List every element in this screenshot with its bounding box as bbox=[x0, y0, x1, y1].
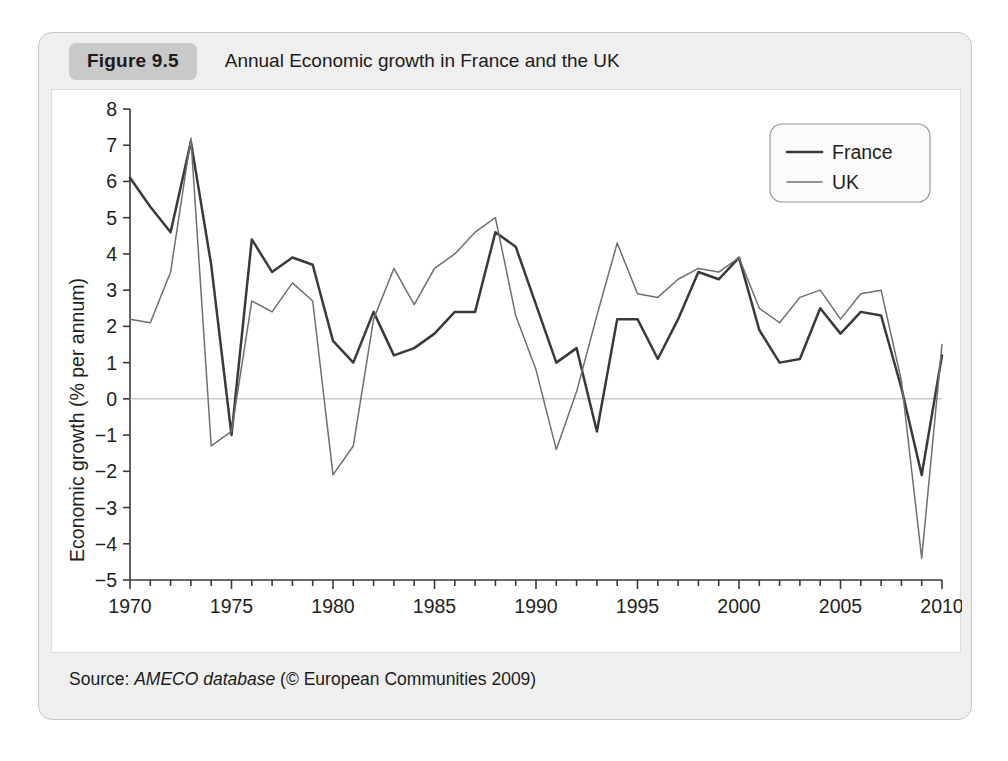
source-rights: (© European Communities 2009) bbox=[280, 669, 536, 689]
y-axis-ticks: 876543210−1−2−3−4−5 bbox=[95, 98, 130, 591]
x-tick-label: 1985 bbox=[413, 595, 457, 617]
economic-growth-line-chart: Economic growth (% per annum) 876543210−… bbox=[52, 90, 962, 654]
y-tick-label: −2 bbox=[95, 460, 117, 482]
x-axis-ticks: 197019751980198519901995200020052010 bbox=[108, 580, 962, 617]
x-tick-label: 2000 bbox=[717, 595, 761, 617]
x-tick-label: 1995 bbox=[616, 595, 660, 617]
y-axis-title: Economic growth (% per annum) bbox=[66, 278, 88, 562]
y-tick-label: 4 bbox=[106, 243, 117, 265]
chart-panel: Economic growth (% per annum) 876543210−… bbox=[51, 89, 961, 653]
y-tick-label: −4 bbox=[95, 533, 117, 555]
figure-header: Figure 9.5 Annual Economic growth in Fra… bbox=[39, 33, 971, 89]
y-tick-label: 5 bbox=[106, 207, 117, 229]
chart-legend: FranceUK bbox=[770, 124, 930, 202]
y-tick-label: 1 bbox=[106, 352, 117, 374]
x-tick-label: 1975 bbox=[210, 595, 254, 617]
source-label: Source: bbox=[69, 669, 129, 689]
y-tick-label: 6 bbox=[106, 170, 117, 192]
legend-label-france: France bbox=[832, 141, 893, 163]
y-tick-label: −1 bbox=[95, 424, 117, 446]
y-tick-label: 3 bbox=[106, 279, 117, 301]
figure-card: Figure 9.5 Annual Economic growth in Fra… bbox=[38, 32, 972, 720]
x-tick-label: 2005 bbox=[819, 595, 863, 617]
y-tick-label: 7 bbox=[106, 134, 117, 156]
y-tick-label: 8 bbox=[106, 98, 117, 120]
y-tick-label: −3 bbox=[95, 497, 117, 519]
x-tick-label: 1970 bbox=[108, 595, 152, 617]
y-tick-label: 2 bbox=[106, 315, 117, 337]
source-database-name: AMECO database bbox=[134, 669, 275, 689]
x-tick-label: 1980 bbox=[311, 595, 355, 617]
y-axis-title-group: Economic growth (% per annum) bbox=[66, 278, 88, 562]
figure-number-badge: Figure 9.5 bbox=[69, 43, 197, 80]
legend-label-uk: UK bbox=[832, 171, 859, 193]
y-tick-label: 0 bbox=[106, 388, 117, 410]
x-tick-label: 2010 bbox=[920, 595, 962, 617]
figure-title: Annual Economic growth in France and the… bbox=[225, 50, 620, 72]
y-tick-label: −5 bbox=[95, 569, 117, 591]
source-note: Source: AMECO database (© European Commu… bbox=[69, 669, 536, 690]
x-tick-label: 1990 bbox=[514, 595, 558, 617]
